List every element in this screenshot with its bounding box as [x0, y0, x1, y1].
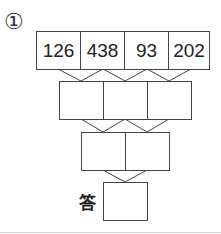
row3-cell-1[interactable]: [81, 132, 126, 171]
answer-label: 答: [79, 189, 96, 214]
row1-cell-2: 438: [80, 31, 125, 70]
row1-cell-3: 93: [124, 31, 169, 70]
row2-cell-2[interactable]: [103, 81, 148, 120]
row1-cell-1: 126: [36, 31, 81, 70]
row1-cell-4: 202: [168, 31, 210, 70]
row2-cell-3[interactable]: [147, 81, 192, 120]
row2-cell-1[interactable]: [59, 81, 104, 120]
row3-cell-2[interactable]: [125, 132, 170, 171]
bottom-divider: [0, 232, 221, 233]
answer-box[interactable]: [103, 182, 148, 221]
